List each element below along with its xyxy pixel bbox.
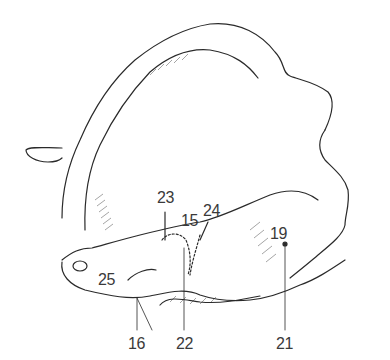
label-24: 24 bbox=[203, 203, 220, 219]
label-23: 23 bbox=[157, 190, 174, 206]
outer-border bbox=[62, 24, 332, 218]
label-21: 21 bbox=[276, 336, 293, 352]
label-19: 19 bbox=[270, 226, 287, 242]
label-22: 22 bbox=[176, 336, 193, 352]
label-16: 16 bbox=[128, 336, 145, 352]
bone-illustration bbox=[0, 0, 390, 360]
label-25: 25 bbox=[98, 272, 115, 288]
label-15: 15 bbox=[181, 213, 198, 229]
